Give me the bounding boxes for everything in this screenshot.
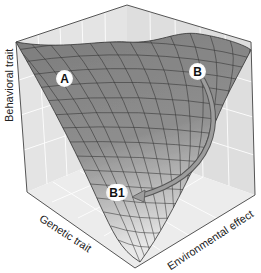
marker-b-label: B xyxy=(193,65,202,79)
marker-b1: B1 xyxy=(106,184,128,201)
marker-b: B xyxy=(189,63,206,80)
marker-a: A xyxy=(56,70,73,87)
axis-label-behavioral-trait: Behavioral trait xyxy=(3,49,15,122)
surface-plot-figure: A B B1 Behavioral trait Genetic trait En… xyxy=(0,0,261,273)
marker-b1-label: B1 xyxy=(109,186,124,200)
marker-a-label: A xyxy=(60,72,69,86)
